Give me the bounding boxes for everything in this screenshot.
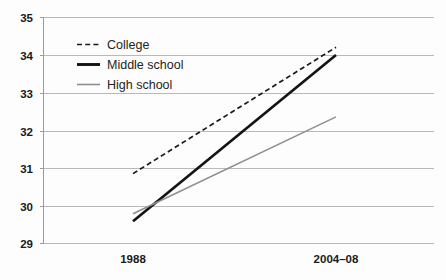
x-axis-tick-labels: 1988 2004–08 (120, 253, 359, 265)
y-tick-label: 34 (20, 50, 33, 62)
line-chart-canvas: 35 34 33 32 31 30 29 1988 2004–08 Colleg… (0, 0, 446, 280)
y-tickmarks-group (40, 18, 44, 244)
y-tick-label: 29 (20, 238, 33, 250)
y-tick-label: 33 (20, 88, 33, 100)
x-tick-label: 1988 (120, 253, 146, 265)
y-tick-label: 30 (20, 201, 33, 213)
data-series-group (133, 47, 336, 221)
legend-label-middle-school: Middle school (107, 58, 183, 72)
y-tick-label: 31 (20, 163, 33, 175)
y-tick-label: 35 (20, 12, 33, 24)
legend-label-college: College (107, 38, 149, 52)
y-tick-label: 32 (20, 126, 33, 138)
chart-figure: 35 34 33 32 31 30 29 1988 2004–08 Colleg… (0, 0, 446, 280)
y-axis-tick-labels: 35 34 33 32 31 30 29 (20, 12, 33, 250)
gridlines-group (44, 18, 434, 244)
x-tick-label: 2004–08 (314, 253, 359, 265)
chart-legend: College Middle school High school (77, 38, 183, 92)
legend-label-high-school: High school (107, 78, 172, 92)
